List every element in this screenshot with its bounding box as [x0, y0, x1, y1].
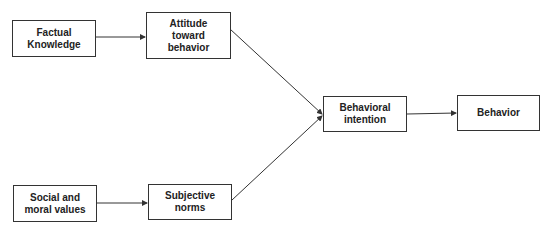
node-label: Factual Knowledge	[27, 27, 80, 51]
node-label: Subjective norms	[165, 190, 215, 214]
node-label: Behavioral intention	[339, 102, 390, 126]
node-label: Behavior	[477, 107, 520, 119]
edge-intention-behavior	[407, 113, 456, 114]
node-label: Attitude toward behavior	[168, 18, 210, 54]
node-subjective-norms: Subjective norms	[148, 184, 232, 220]
node-attitude-toward-behavior: Attitude toward behavior	[146, 12, 231, 59]
edge-subjective-intention	[232, 116, 322, 200]
node-behavioral-intention: Behavioral intention	[323, 96, 407, 132]
node-label: Social and moral values	[24, 192, 85, 216]
node-behavior: Behavior	[457, 95, 540, 131]
node-social-moral-values: Social and moral values	[13, 185, 97, 222]
edge-attitude-intention	[230, 29, 322, 114]
node-factual-knowledge: Factual Knowledge	[12, 20, 96, 57]
